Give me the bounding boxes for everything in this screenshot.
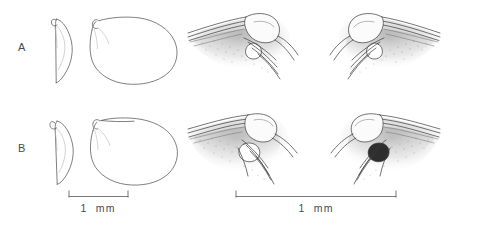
scalebar-left xyxy=(68,190,130,200)
row-b-hinge-detail-right xyxy=(322,108,440,196)
scalebar-left-label: 1 mm xyxy=(68,202,128,214)
row-a-hinge-detail-left xyxy=(188,8,306,96)
scalebar-right xyxy=(235,190,399,200)
row-label-a: A xyxy=(18,41,26,53)
row-b-lateral-valve-outline xyxy=(88,113,182,189)
row-label-b: B xyxy=(18,142,26,154)
illustration-plate: A B xyxy=(0,0,485,231)
row-a-lateral-valve-outline xyxy=(88,12,182,88)
scalebar-right-label: 1 mm xyxy=(235,202,397,214)
row-a-dorsal-view xyxy=(44,12,86,88)
row-b-dorsal-view xyxy=(44,113,86,189)
row-b-hinge-detail-left xyxy=(188,108,306,196)
row-a-hinge-detail-right xyxy=(322,8,440,96)
